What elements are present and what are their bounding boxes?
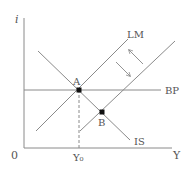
point-b-label: B — [98, 117, 105, 128]
is-lm-bp-diagram: i Y 0 Y₀ LM IS BP A B — [0, 0, 193, 171]
point-b-marker — [100, 110, 105, 115]
y-axis-label: i — [15, 13, 19, 26]
is-label: IS — [134, 136, 145, 147]
point-a-marker — [77, 88, 82, 93]
point-a-label: A — [72, 76, 81, 87]
origin-label: 0 — [11, 149, 18, 162]
x-axis-label: Y — [172, 149, 181, 162]
shift-arrow-up-left-icon — [129, 50, 143, 64]
lm-label: LM — [127, 29, 144, 40]
lm-shifted-curve — [80, 41, 175, 131]
shift-arrow-down-right-icon — [116, 62, 130, 76]
y0-tick-label: Y₀ — [72, 152, 84, 163]
lm-curve — [36, 39, 128, 131]
bp-label: BP — [165, 85, 179, 96]
